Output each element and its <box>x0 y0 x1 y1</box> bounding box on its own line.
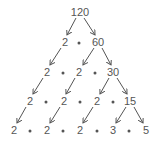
factor-node: 2 <box>27 96 33 107</box>
multiply-dot-icon <box>45 101 48 104</box>
factor-node: 15 <box>124 96 136 107</box>
arrow-icon <box>83 48 94 65</box>
multiply-dot-icon <box>62 72 65 75</box>
factor-node: 2 <box>44 67 50 78</box>
arrow-icon <box>117 78 127 94</box>
multiply-dot-icon <box>112 101 115 104</box>
multiply-dot-icon <box>96 130 99 133</box>
factor-node: 2 <box>61 96 67 107</box>
factor-tree-diagram: 12026022302221522235 <box>0 0 158 143</box>
arrow-icon <box>83 107 93 123</box>
multiply-dot-icon <box>94 72 97 75</box>
arrow-icon <box>33 78 43 94</box>
factor-node: 2 <box>94 96 100 107</box>
multiply-dot-icon <box>79 101 82 104</box>
factor-node: 30 <box>107 67 119 78</box>
arrow-icon <box>102 48 111 65</box>
arrow-icon <box>100 78 109 94</box>
factor-node: 2 <box>11 125 17 136</box>
arrow-icon <box>66 78 75 94</box>
factor-node: 3 <box>110 125 116 136</box>
arrow-icon <box>84 18 95 35</box>
factor-node: 2 <box>62 37 68 48</box>
factor-node: 5 <box>143 125 149 136</box>
multiply-dot-icon <box>78 42 81 45</box>
multiply-dot-icon <box>29 130 32 133</box>
arrow-icon <box>17 107 26 123</box>
multiply-dot-icon <box>62 130 65 133</box>
arrow-icon <box>116 107 126 123</box>
arrow-icon <box>134 107 143 123</box>
factor-node: 120 <box>71 7 89 18</box>
arrow-icon <box>67 18 76 35</box>
arrow-icon <box>50 107 60 123</box>
arrow-icon <box>50 48 61 65</box>
multiply-dot-icon <box>128 130 131 133</box>
factor-node: 2 <box>44 125 50 136</box>
factor-node: 60 <box>92 37 104 48</box>
factor-node: 2 <box>77 125 83 136</box>
factor-node: 2 <box>76 67 82 78</box>
